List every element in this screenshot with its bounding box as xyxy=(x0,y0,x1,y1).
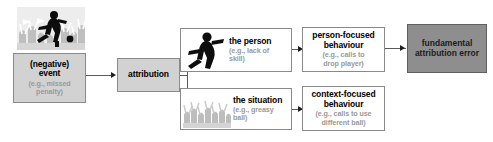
soccer-player-photo-graphic xyxy=(17,7,85,50)
crowd-silhouette-icon xyxy=(183,90,231,128)
the-person-title: the person xyxy=(229,37,291,47)
node-person-focused-behaviour: person-focused behaviour (e.g., calls to… xyxy=(302,27,385,72)
negative-event-title-line2: event xyxy=(39,69,61,79)
connector-event-to-attribution xyxy=(86,75,112,76)
the-situation-sub-line2: ball) xyxy=(233,114,291,122)
crowd-silhouette-graphic xyxy=(183,90,231,128)
arrowhead-event-to-attribution xyxy=(111,72,116,78)
attribution-title: attribution xyxy=(128,70,169,80)
person-focused-sub-line2: drop player) xyxy=(323,60,363,68)
soccer-player-photo xyxy=(17,7,85,50)
attribution-diagram: (negative) event (e.g., missed penalty) … xyxy=(0,0,493,142)
the-person-text: the person (e.g., lack of skill) xyxy=(227,37,291,64)
node-the-situation: the situation (e.g., greasy ball) xyxy=(180,88,292,130)
node-context-focused-behaviour: context-focused behaviour (e.g., calls t… xyxy=(302,86,385,131)
arrowhead-person-focused-to-fae xyxy=(400,45,405,51)
node-the-person: the person (e.g., lack of skill) xyxy=(180,28,292,72)
the-situation-title: the situation xyxy=(233,96,291,106)
the-situation-text: the situation (e.g., greasy ball) xyxy=(231,96,291,123)
person-silhouette-graphic xyxy=(183,30,227,70)
person-focused-title-line2: behaviour xyxy=(324,41,364,51)
the-person-sub-line2: skill) xyxy=(229,55,291,63)
node-fundamental-attribution-error: fundamental attribution error xyxy=(407,24,487,73)
node-negative-event: (negative) event (e.g., missed penalty) xyxy=(13,53,86,103)
person-silhouette-icon xyxy=(183,30,227,70)
fae-title-line2: attribution error xyxy=(415,49,479,59)
context-focused-sub-line2: different ball) xyxy=(321,119,365,127)
node-attribution: attribution xyxy=(117,58,180,92)
negative-event-sub-line2: penalty) xyxy=(36,88,63,96)
context-focused-title-line2: behaviour xyxy=(324,100,364,110)
